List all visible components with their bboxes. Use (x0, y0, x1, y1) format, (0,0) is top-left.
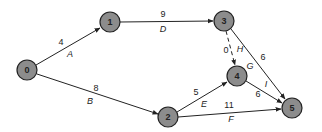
edge-2-5-duration: 11 (224, 100, 233, 110)
edge-2-4-activity: E (201, 99, 208, 109)
node-2: 2 (158, 107, 178, 127)
node-3: 3 (214, 11, 234, 31)
edge-1-3-activity: D (160, 24, 167, 34)
node-4-label: 4 (234, 71, 239, 81)
edge-1-3 (120, 21, 213, 22)
node-2-label: 2 (165, 112, 170, 122)
edge-0-2-duration: 8 (93, 83, 98, 93)
node-3-label: 3 (221, 16, 226, 26)
edge-0-1-activity: A (66, 49, 73, 59)
edge-3-4-activity: H (237, 44, 244, 54)
network-diagram: 4 A 8 B 9 D 0 H 6 G 5 E 11 F I 6 0 1 2 (0, 0, 322, 132)
node-5-label: 5 (289, 103, 294, 113)
edge-0-1 (36, 28, 100, 65)
edge-3-5-activity: G (246, 61, 253, 71)
edge-3-5-duration: 6 (260, 52, 265, 62)
node-0: 0 (17, 60, 37, 80)
node-4: 4 (227, 66, 247, 86)
edge-2-4-duration: 5 (193, 87, 198, 97)
edge-3-4-duration: 0 (223, 45, 228, 55)
edge-0-1-duration: 4 (58, 37, 63, 47)
node-1: 1 (100, 12, 120, 32)
edge-0-2 (37, 74, 158, 114)
node-5: 5 (282, 98, 302, 118)
edge-0-2-activity: B (87, 96, 93, 106)
edge-2-5-activity: F (228, 114, 234, 124)
edge-4-5-activity: I (265, 79, 268, 89)
edge-4-5-duration: 6 (255, 89, 260, 99)
node-0-label: 0 (24, 65, 29, 75)
node-1-label: 1 (107, 17, 112, 27)
edge-1-3-duration: 9 (160, 9, 165, 19)
